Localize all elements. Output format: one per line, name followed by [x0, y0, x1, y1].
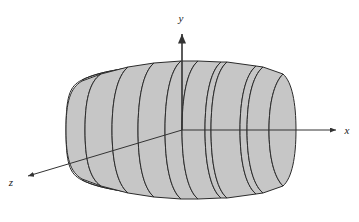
- figure-container: y x z: [0, 0, 359, 222]
- z-axis-label: z: [8, 176, 14, 188]
- y-axis-label: y: [178, 12, 184, 24]
- solid-of-revolution-diagram: y x z: [0, 0, 359, 222]
- x-axis-label: x: [344, 124, 350, 136]
